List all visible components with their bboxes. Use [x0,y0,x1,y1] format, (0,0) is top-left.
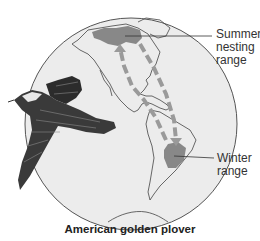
figure-caption: American golden plover [0,223,260,235]
winter-range-label: Winter range [217,152,260,178]
label-line: range [217,165,260,178]
migration-diagram: Summer nesting range Winter range Americ… [0,0,260,241]
label-line: range [216,54,260,67]
summer-nesting-range-label: Summer nesting range [216,28,260,67]
